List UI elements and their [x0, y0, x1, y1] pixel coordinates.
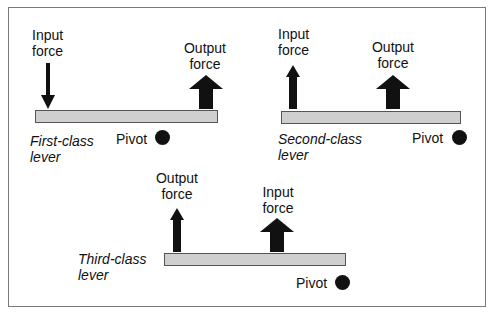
- second-input-force-label: Input force: [278, 26, 309, 58]
- third-output-force-label: Output force: [152, 170, 202, 202]
- label-line: Output: [152, 170, 202, 186]
- label-line: force: [152, 186, 202, 202]
- label-line: Second-class: [278, 131, 362, 147]
- label-line: First-class: [30, 133, 94, 149]
- label-line: Input: [253, 184, 303, 200]
- label-line: force: [253, 200, 303, 216]
- second-input-arrow-up-icon: [286, 65, 300, 109]
- third-pivot-dot-icon: [335, 275, 350, 290]
- label-line: force: [180, 56, 230, 72]
- third-input-arrow-up-icon: [260, 218, 294, 252]
- label-line: force: [278, 42, 309, 58]
- label-line: lever: [30, 149, 94, 165]
- label-line: lever: [278, 147, 362, 163]
- second-output-arrow-up-icon: [376, 75, 410, 109]
- label-line: force: [368, 55, 418, 71]
- third-output-arrow-up-icon: [170, 208, 184, 252]
- first-input-arrow-down-icon: [41, 63, 55, 109]
- third-class-lever-label: Third-class lever: [78, 251, 146, 283]
- label-line: Output: [180, 40, 230, 56]
- first-output-arrow-up-icon: [189, 75, 223, 109]
- first-pivot-dot-icon: [155, 130, 170, 145]
- second-class-lever-bar: [281, 111, 461, 124]
- first-output-force-label: Output force: [180, 40, 230, 72]
- first-input-force-label: Input force: [32, 27, 63, 59]
- label-line: Input: [278, 26, 309, 42]
- second-pivot-dot-icon: [452, 130, 467, 145]
- second-output-force-label: Output force: [368, 39, 418, 71]
- label-line: lever: [78, 267, 146, 283]
- second-pivot-label: Pivot: [412, 130, 443, 146]
- first-class-lever-bar: [35, 110, 218, 123]
- label-line: Third-class: [78, 251, 146, 267]
- third-pivot-label: Pivot: [296, 275, 327, 291]
- label-line: force: [32, 43, 63, 59]
- first-pivot-label: Pivot: [116, 131, 147, 147]
- label-line: Input: [32, 27, 63, 43]
- first-class-lever-label: First-class lever: [30, 133, 94, 165]
- third-input-force-label: Input force: [253, 184, 303, 216]
- second-class-lever-label: Second-class lever: [278, 131, 362, 163]
- third-class-lever-bar: [164, 253, 346, 266]
- label-line: Output: [368, 39, 418, 55]
